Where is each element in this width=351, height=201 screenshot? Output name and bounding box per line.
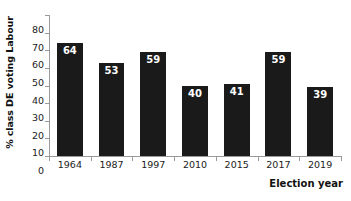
y-axis-tick-mark: [45, 86, 49, 87]
y-axis-title: % class DE voting Labour: [0, 0, 18, 165]
x-axis-tick-mark: [341, 156, 342, 161]
y-axis-tick-labels: 80706050403020100: [20, 15, 44, 156]
x-axis-line: [49, 156, 341, 157]
y-axis-tick-label: 0: [20, 166, 44, 176]
y-axis-tick-label: 30: [20, 113, 44, 123]
y-axis-title-text: % class DE voting Labour: [4, 16, 15, 149]
y-axis-tick-label: 40: [20, 96, 44, 106]
y-axis-tick-mark: [45, 50, 49, 51]
y-axis-tick-label: 70: [20, 43, 44, 53]
y-axis-tick-mark: [45, 121, 49, 122]
y-axis-tick-label: 10: [20, 149, 44, 159]
x-axis-tick-label: 2010: [174, 160, 216, 170]
bar[interactable]: 53: [99, 63, 125, 156]
bar-value-label: 53: [99, 66, 125, 76]
y-axis-line: [49, 15, 50, 156]
bar[interactable]: 41: [224, 84, 250, 156]
bar-value-label: 64: [57, 46, 83, 56]
bar[interactable]: 64: [57, 43, 83, 156]
bar[interactable]: 59: [265, 52, 291, 156]
bar[interactable]: 40: [182, 86, 208, 157]
x-axis-tick-labels: 1964198719972010201520172019: [49, 160, 341, 174]
bar-value-label: 41: [224, 87, 250, 97]
bar-chart: % class DE voting Labour 807060504030201…: [0, 0, 351, 201]
plot-area: 64535940415939: [49, 15, 341, 156]
bar-value-label: 59: [265, 55, 291, 65]
x-axis-tick-label: 1964: [49, 160, 91, 170]
y-axis-tick-label: 50: [20, 78, 44, 88]
bar-value-label: 59: [140, 55, 166, 65]
bar[interactable]: 39: [307, 87, 333, 156]
y-axis-tick-label: 60: [20, 61, 44, 71]
x-axis-tick-label: 2019: [299, 160, 341, 170]
y-axis-tick-mark: [45, 103, 49, 104]
x-axis-tick-label: 1997: [132, 160, 174, 170]
y-axis-tick-label: 20: [20, 131, 44, 141]
y-axis-tick-label: 80: [20, 25, 44, 35]
y-axis-tick-mark: [45, 68, 49, 69]
bar-value-label: 39: [307, 90, 333, 100]
x-axis-title: Election year: [269, 178, 343, 189]
bar[interactable]: 59: [140, 52, 166, 156]
x-axis-tick-label: 1987: [91, 160, 133, 170]
bar-value-label: 40: [182, 89, 208, 99]
x-axis-tick-label: 2015: [216, 160, 258, 170]
x-axis-tick-label: 2017: [258, 160, 300, 170]
y-axis-tick-mark: [45, 33, 49, 34]
y-axis-tick-mark: [45, 138, 49, 139]
y-axis-tick-mark: [45, 15, 49, 16]
